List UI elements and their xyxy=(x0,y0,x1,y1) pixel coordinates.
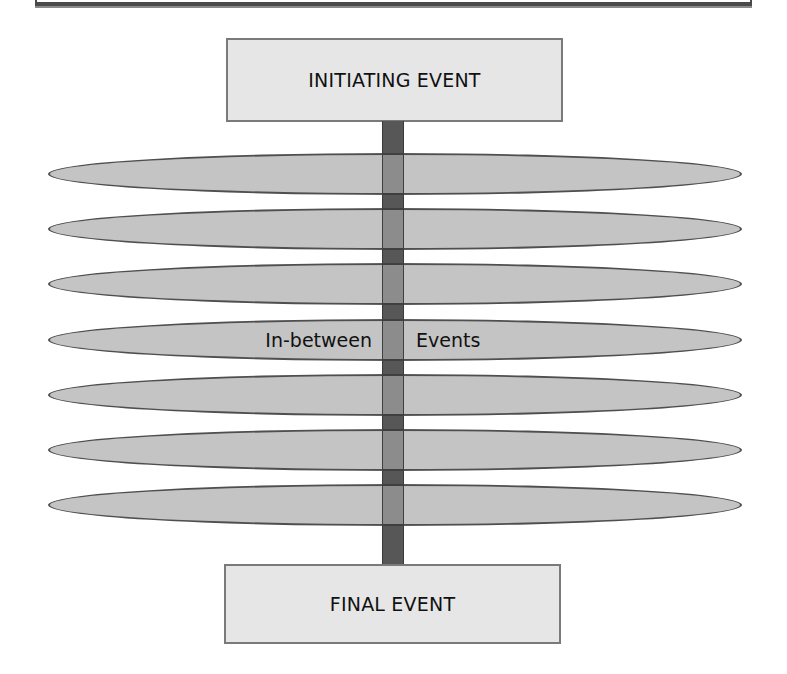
spine-crossing-segment xyxy=(382,153,404,195)
spine-crossing-segment xyxy=(382,208,404,250)
initiating-event-box: INITIATING EVENT xyxy=(226,38,563,122)
top-frame-border xyxy=(35,0,752,6)
final-event-box: FINAL EVENT xyxy=(224,564,561,644)
spine-crossing-segment xyxy=(382,484,404,526)
in-between-label: In-between xyxy=(0,319,372,361)
spine-crossing-segment xyxy=(382,319,404,361)
spine-crossing-segment xyxy=(382,263,404,305)
spine-crossing-segment xyxy=(382,374,404,416)
final-event-label: FINAL EVENT xyxy=(330,593,455,615)
initiating-event-label: INITIATING EVENT xyxy=(308,69,480,91)
events-label: Events xyxy=(416,319,480,361)
spine-crossing-segment xyxy=(382,429,404,471)
